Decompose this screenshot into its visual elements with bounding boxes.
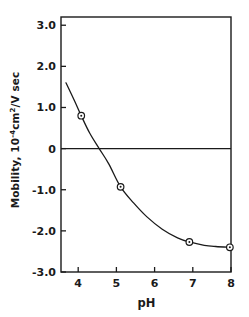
x-tick-label-3: 7: [181, 277, 205, 290]
plot-area: [0, 0, 249, 317]
chart-figure: Mobility, 10-4cm2/V sec 3.02.01.00-1.0-2…: [0, 0, 249, 317]
plot-frame: [61, 17, 231, 272]
x-axis-label: pH: [61, 296, 232, 310]
data-point-center-2: [188, 241, 190, 243]
x-tick-label-4: 8: [219, 277, 243, 290]
data-point-center-0: [80, 115, 82, 117]
x-tick-label-0: 4: [66, 277, 90, 290]
data-point-center-3: [229, 246, 231, 248]
x-tick-label-1: 5: [104, 277, 128, 290]
x-axis-tick-labels: 45678: [0, 277, 249, 295]
data-curve: [66, 83, 230, 248]
data-point-center-1: [120, 186, 122, 188]
x-tick-label-2: 6: [143, 277, 167, 290]
